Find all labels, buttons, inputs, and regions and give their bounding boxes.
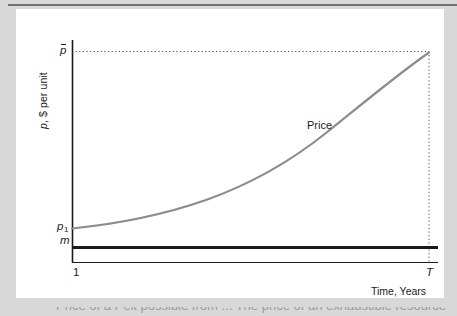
figure-caption-cropped: Price of a Pelt possible from ... The pr…	[16, 307, 457, 316]
p1-subscript: 1	[64, 225, 68, 234]
figure-panel: p, $ per unit Time, Years p p1 m 1 T Pri…	[16, 9, 444, 298]
x-tick-label-T: T	[426, 267, 433, 279]
chart-plot-area	[16, 9, 444, 298]
pbar-overline-glyph: p	[60, 45, 66, 57]
price-curve	[72, 53, 429, 229]
chart-svg	[16, 9, 444, 298]
figure-root: p, $ per unit Time, Years p p1 m 1 T Pri…	[0, 0, 457, 316]
y-tick-label-pbar: p	[60, 45, 66, 57]
y-axis-title-rest: , $ per unit	[37, 72, 49, 123]
x-axis-title: Time, Years	[371, 286, 426, 297]
x-tick-label-one: 1	[73, 267, 79, 279]
y-axis-title: p, $ per unit	[38, 72, 49, 129]
y-axis-title-variable: p	[37, 123, 49, 129]
price-curve-label: Price	[307, 120, 332, 131]
y-tick-label-p1: p1	[57, 221, 68, 233]
y-tick-label-m: m	[60, 235, 70, 247]
figure-caption-text: Price of a Pelt possible from ... The pr…	[56, 307, 446, 313]
p1-variable: p	[57, 220, 63, 232]
top-divider-rule	[8, 4, 457, 6]
